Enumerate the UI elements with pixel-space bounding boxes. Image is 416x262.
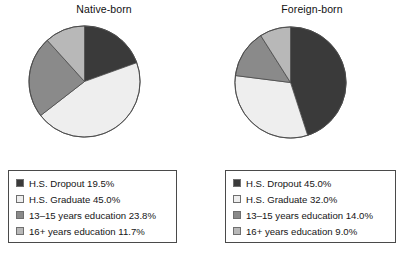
legend-swatch-hs-dropout-icon — [16, 179, 24, 187]
legend-item: H.S. Dropout 19.5% — [16, 175, 176, 191]
legend-label: 16+ years education 11.7% — [29, 226, 145, 237]
pie-svg-native-born — [28, 25, 141, 138]
legend-swatch-hs-dropout-icon — [233, 179, 241, 187]
legend-item: 13–15 years education 23.8% — [16, 207, 176, 223]
pie-svg-foreign-born — [234, 26, 347, 139]
legend-label: 13–15 years education 14.0% — [246, 210, 373, 221]
legend-native-born: H.S. Dropout 19.5% H.S. Graduate 45.0% 1… — [8, 170, 177, 243]
legend-swatch-16-plus-years-icon — [16, 227, 24, 235]
legend-label: 13–15 years education 23.8% — [29, 210, 156, 221]
legend-label: H.S. Graduate 32.0% — [246, 194, 337, 205]
legend-label: H.S. Dropout 19.5% — [29, 178, 114, 189]
legend-swatch-13-15-years-icon — [233, 211, 241, 219]
legend-item: 13–15 years education 14.0% — [233, 207, 395, 223]
chart-title-foreign-born: Foreign-born — [208, 3, 416, 15]
legend-swatch-13-15-years-icon — [16, 211, 24, 219]
legend-swatch-16-plus-years-icon — [233, 227, 241, 235]
legend-foreign-born: H.S. Dropout 45.0% H.S. Graduate 32.0% 1… — [225, 170, 396, 243]
legend-item: 16+ years education 11.7% — [16, 223, 176, 239]
legend-item: 16+ years education 9.0% — [233, 223, 395, 239]
pie-chart-native-born — [28, 25, 141, 138]
legend-label: H.S. Graduate 45.0% — [29, 194, 120, 205]
pie-chart-foreign-born — [234, 26, 347, 139]
legend-swatch-hs-graduate-icon — [16, 195, 24, 203]
legend-label: H.S. Dropout 45.0% — [246, 178, 331, 189]
chart-title-native-born: Native-born — [0, 3, 208, 15]
pie-panel-foreign-born: Foreign-born H.S. Dropout 45.0% H.S. Gra… — [208, 0, 416, 262]
legend-item: H.S. Graduate 45.0% — [16, 191, 176, 207]
legend-item: H.S. Dropout 45.0% — [233, 175, 395, 191]
pie-panel-native-born: Native-born H.S. Dropout 19.5% H.S. Grad… — [0, 0, 208, 262]
legend-label: 16+ years education 9.0% — [246, 226, 357, 237]
legend-swatch-hs-graduate-icon — [233, 195, 241, 203]
legend-item: H.S. Graduate 32.0% — [233, 191, 395, 207]
